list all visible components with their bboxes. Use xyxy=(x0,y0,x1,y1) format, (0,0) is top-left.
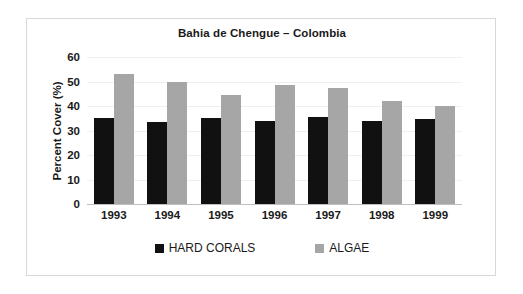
bar-group xyxy=(408,57,462,204)
bar-algae-1998 xyxy=(382,101,402,204)
bar-algae-1999 xyxy=(435,106,455,204)
bar-group xyxy=(355,57,409,204)
y-axis-title-label: Percent Cover (%) xyxy=(51,81,63,180)
bar-algae-1994 xyxy=(167,82,187,205)
y-axis-tick-label: 50 xyxy=(67,76,80,88)
x-axis-tick-label-1999: 1999 xyxy=(408,209,462,221)
y-axis-tick-label: 20 xyxy=(67,149,80,161)
bar-algae-1996 xyxy=(275,85,295,204)
x-axis-baseline: 0 xyxy=(87,204,462,205)
legend-item-hard-corals[interactable]: HARD CORALS xyxy=(155,241,256,255)
legend-swatch-icon xyxy=(155,244,164,253)
y-axis-tick-label: 40 xyxy=(67,100,80,112)
chart-title: Bahia de Chengue – Colombia xyxy=(27,27,497,39)
y-axis-tick-label: 0 xyxy=(74,198,80,210)
bar-algae-1997 xyxy=(328,88,348,204)
bar-hard-corals-1999 xyxy=(415,119,435,204)
x-axis-tick-label-1995: 1995 xyxy=(194,209,248,221)
bar-group xyxy=(248,57,302,204)
chart-legend: HARD CORALSALGAE xyxy=(27,241,497,255)
bar-group xyxy=(301,57,355,204)
x-axis-tick-label-1993: 1993 xyxy=(87,209,141,221)
bar-hard-corals-1998 xyxy=(362,121,382,204)
y-axis-tick-label: 10 xyxy=(67,174,80,186)
bar-hard-corals-1996 xyxy=(255,121,275,204)
legend-label: ALGAE xyxy=(329,241,369,255)
bar-hard-corals-1997 xyxy=(308,117,328,204)
y-axis-tick-label: 30 xyxy=(67,125,80,137)
x-axis-tick-label-1998: 1998 xyxy=(355,209,409,221)
bar-groups xyxy=(87,57,462,204)
x-axis-tick-label-1997: 1997 xyxy=(301,209,355,221)
bar-group xyxy=(141,57,195,204)
legend-swatch-icon xyxy=(315,244,324,253)
bar-hard-corals-1993 xyxy=(94,118,114,204)
x-axis-tick-labels: 1993199419951996199719981999 xyxy=(87,209,462,221)
x-axis-tick-label-1994: 1994 xyxy=(141,209,195,221)
bar-group xyxy=(87,57,141,204)
bar-hard-corals-1995 xyxy=(201,118,221,204)
x-axis-tick-label-1996: 1996 xyxy=(248,209,302,221)
bar-hard-corals-1994 xyxy=(147,122,167,204)
bar-algae-1993 xyxy=(114,74,134,204)
bar-group xyxy=(194,57,248,204)
legend-item-algae[interactable]: ALGAE xyxy=(315,241,369,255)
legend-label: HARD CORALS xyxy=(169,241,256,255)
chart-container: Bahia de Chengue – Colombia Percent Cove… xyxy=(26,18,496,276)
y-axis-title: Percent Cover (%) xyxy=(49,57,65,204)
bar-algae-1995 xyxy=(221,95,241,204)
y-axis-tick-label: 60 xyxy=(67,51,80,63)
